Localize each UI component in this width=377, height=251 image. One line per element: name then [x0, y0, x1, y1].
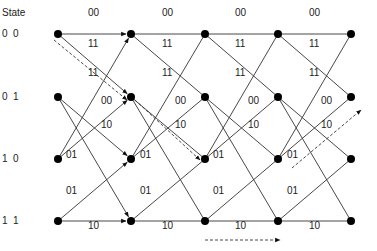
edge-output-label: 10: [88, 221, 99, 231]
edge-output-label: 10: [162, 221, 173, 231]
edge-output-label: 11: [235, 68, 245, 78]
state-node: [347, 93, 355, 101]
state-label: 0 1: [2, 92, 19, 102]
transition-edge: [58, 97, 127, 156]
edge-output-label: 01: [213, 150, 224, 160]
state-node: [54, 30, 62, 38]
state-node: [127, 93, 135, 101]
state-header: State: [2, 8, 25, 18]
trellis-nodes: [54, 30, 355, 225]
state-node: [274, 217, 282, 225]
state-node: [274, 30, 282, 38]
edge-output-label: 01: [140, 186, 151, 196]
edge-output-label: 00: [321, 96, 332, 106]
edge-output-label: 00: [162, 8, 173, 18]
edge-output-label: 01: [287, 186, 298, 196]
state-node: [201, 155, 209, 163]
state-node: [54, 217, 62, 225]
state-node: [347, 155, 355, 163]
edge-output-label: 00: [88, 8, 99, 18]
edge-output-label: 10: [321, 120, 332, 130]
state-node: [347, 217, 355, 225]
edge-output-label: 01: [140, 150, 151, 160]
transition-edge: [58, 38, 128, 159]
edge-output-label: 00: [235, 8, 246, 18]
edge-output-label: 00: [101, 96, 112, 106]
state-node: [274, 93, 282, 101]
edge-output-label: 00: [175, 96, 186, 106]
state-label: 0 0: [2, 29, 19, 39]
state-node: [127, 30, 135, 38]
state-node: [54, 155, 62, 163]
state-node: [201, 93, 209, 101]
edge-output-label: 11: [88, 39, 98, 49]
edge-output-label: 10: [101, 120, 112, 130]
transition-edge: [205, 34, 278, 159]
edge-output-label: 11: [309, 68, 319, 78]
state-label: 1 0: [2, 154, 19, 164]
edge-output-label: 01: [66, 186, 77, 196]
state-node: [347, 30, 355, 38]
edge-output-label: 11: [309, 39, 319, 49]
state-node: [274, 155, 282, 163]
edge-output-label: 11: [162, 68, 172, 78]
edge-output-label: 01: [213, 186, 224, 196]
edge-output-label: 00: [248, 96, 259, 106]
transition-edge: [131, 34, 205, 159]
state-node: [127, 217, 135, 225]
edge-output-label: 01: [66, 150, 77, 160]
edge-output-label: 11: [162, 39, 172, 49]
state-node: [201, 30, 209, 38]
edge-output-label: 10: [175, 120, 186, 130]
state-node: [54, 93, 62, 101]
edge-output-label: 00: [309, 8, 320, 18]
edge-output-label: 01: [287, 150, 298, 160]
edge-output-label: 10: [248, 120, 259, 130]
transition-edge: [278, 34, 351, 159]
edge-output-label: 10: [309, 221, 320, 231]
state-node: [127, 155, 135, 163]
state-node: [201, 217, 209, 225]
edge-output-label: 11: [88, 68, 98, 78]
state-label: 1 1: [2, 216, 19, 226]
edge-output-label: 11: [235, 39, 245, 49]
edge-output-label: 10: [235, 221, 246, 231]
